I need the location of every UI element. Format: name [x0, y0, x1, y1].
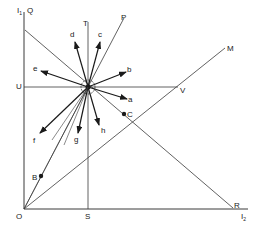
arrow-c [88, 42, 100, 87]
ray-lower-left [24, 87, 88, 209]
arrow-a [88, 87, 127, 99]
diagram-canvas: I1 Q T P M U V S R O I2 B C a b c d e f … [0, 0, 259, 233]
label-d: d [70, 30, 74, 39]
point-B [39, 174, 43, 178]
label-b: b [127, 65, 132, 74]
label-V: V [180, 86, 186, 95]
label-O: O [16, 212, 22, 221]
label-c: c [98, 30, 102, 39]
arrow-b [88, 72, 126, 87]
line-Q-R [25, 30, 233, 208]
label-T: T [83, 19, 88, 28]
label-B: B [32, 173, 37, 182]
arrow-h [88, 87, 99, 125]
label-g: g [74, 135, 78, 144]
label-M: M [227, 44, 234, 53]
point-C [122, 112, 126, 116]
arrow-f [40, 87, 88, 133]
label-I1: I1 [17, 6, 22, 16]
label-R: R [234, 201, 240, 210]
label-h: h [101, 126, 105, 135]
label-U: U [16, 82, 22, 91]
arrow-e [41, 71, 88, 87]
label-C: C [127, 110, 133, 119]
arrow-d [75, 42, 88, 87]
label-I2: I2 [241, 212, 246, 222]
label-a: a [128, 95, 133, 104]
label-Q: Q [27, 6, 33, 15]
label-f: f [33, 136, 36, 145]
label-S: S [85, 212, 90, 221]
label-P: P [121, 13, 126, 22]
diagram: I1 Q T P M U V S R O I2 B C a b c d e f … [0, 0, 259, 233]
label-e: e [33, 64, 38, 73]
